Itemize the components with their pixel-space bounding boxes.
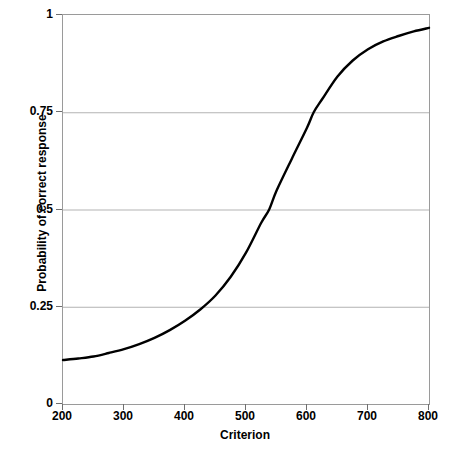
x-tick-label: 800: [398, 410, 457, 423]
x-tick-label: 200: [32, 410, 92, 423]
x-tick-label: 500: [215, 410, 275, 423]
y-axis-title: Probability of correct response: [35, 83, 49, 323]
y-tick-mark: [56, 111, 62, 112]
chart-figure: 00.250.50.751 200300400500600700800 Crit…: [0, 0, 457, 458]
x-tick-label: 300: [93, 410, 153, 423]
y-tick-label: 0: [3, 397, 53, 409]
y-tick-mark: [56, 209, 62, 210]
x-tick-label: 700: [337, 410, 397, 423]
y-tick-mark: [56, 306, 62, 307]
x-axis-title: Criterion: [62, 428, 428, 442]
response-curve: [63, 28, 429, 360]
gridlines-group: [63, 113, 429, 308]
y-tick-label: 1: [3, 8, 53, 20]
x-tick-label: 400: [154, 410, 214, 423]
y-tick-label-wrap: 1: [0, 8, 53, 20]
plot-area: [62, 14, 430, 405]
x-tick-label: 600: [276, 410, 336, 423]
y-tick-mark: [56, 14, 62, 15]
y-tick-label-wrap: 0: [0, 397, 53, 409]
curve-svg: [63, 15, 429, 404]
